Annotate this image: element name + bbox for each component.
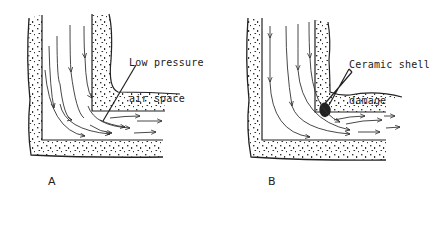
annotation-b-line2: damage <box>349 95 430 107</box>
panel-label-a: A <box>48 175 56 188</box>
annotation-a-line2: air space <box>129 93 204 105</box>
annotation-low-pressure: Low pressure air space <box>129 33 204 117</box>
panel-label-b: B <box>268 175 276 188</box>
annotation-a-line1: Low pressure <box>129 57 204 69</box>
annotation-ceramic-damage: Ceramic shell damage <box>349 35 430 119</box>
annotation-b-line1: Ceramic shell <box>349 59 430 71</box>
